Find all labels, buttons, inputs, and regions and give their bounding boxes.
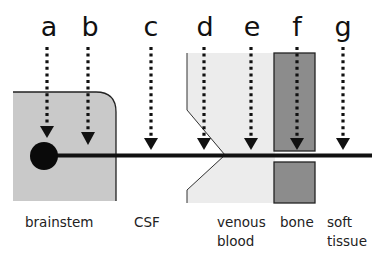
probe-letter-b: b [75, 12, 105, 42]
probe-arrow-g [336, 47, 350, 150]
probe-arrow-c [144, 47, 158, 150]
brainstem-region [13, 92, 116, 201]
label-bone: bone [280, 213, 314, 232]
probe-letter-f: f [282, 12, 312, 42]
source-dot [30, 142, 58, 170]
label-brainstem: brainstem [25, 213, 93, 232]
label-venous-blood: venous blood [217, 213, 266, 251]
bone-upper-region [274, 53, 315, 151]
label-csf: CSF [134, 213, 160, 232]
probe-letter-g: g [328, 12, 358, 42]
bone-lower-region [274, 162, 315, 203]
probe-letter-a: a [34, 12, 64, 42]
probe-letter-e: e [237, 12, 267, 42]
probe-letter-c: c [136, 12, 166, 42]
probe-letter-d: d [190, 12, 220, 42]
venous-blood-region [187, 53, 275, 203]
label-soft-tissue: soft tissue [327, 213, 367, 251]
